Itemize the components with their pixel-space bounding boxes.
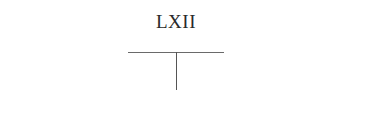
t-chart-vertical-rule — [176, 52, 177, 90]
section-numeral-heading: LXII — [0, 11, 352, 33]
